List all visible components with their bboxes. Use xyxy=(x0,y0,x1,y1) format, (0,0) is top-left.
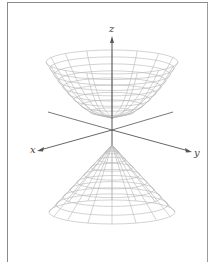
lower-cone-mesh xyxy=(49,145,175,224)
x-axis xyxy=(40,130,112,150)
mesh-meridian xyxy=(112,145,170,207)
mesh-meridian xyxy=(46,62,112,118)
z-axis-label: z xyxy=(109,24,114,34)
x-axis-arrow-icon xyxy=(37,147,44,152)
mesh-meridian xyxy=(112,145,157,220)
mesh-meridian xyxy=(112,145,170,217)
mesh-meridian xyxy=(112,145,136,201)
mesh-meridian xyxy=(67,145,112,220)
mesh-meridian xyxy=(88,145,112,201)
mesh-meridian xyxy=(112,57,173,118)
mesh-meridian xyxy=(54,145,112,207)
mesh-meridian xyxy=(54,145,112,217)
y-axis-arrow-icon xyxy=(185,148,192,153)
mesh-meridian xyxy=(88,145,112,223)
z-axis-arrow-icon xyxy=(110,36,114,43)
mesh-meridian xyxy=(112,62,178,118)
mesh-meridian xyxy=(112,145,136,223)
y-axis xyxy=(112,130,189,151)
x-axis-label: x xyxy=(30,145,36,155)
y-axis-label: y xyxy=(194,148,200,158)
coordinate-axes xyxy=(37,36,192,153)
mesh-meridian xyxy=(51,57,112,118)
